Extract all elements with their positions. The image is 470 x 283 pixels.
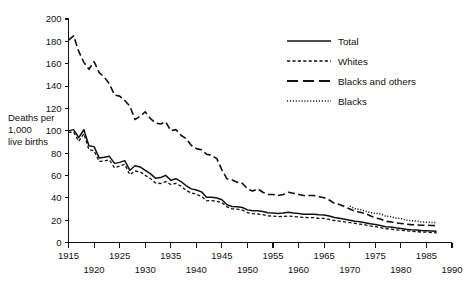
x-tick-label-lower: 1940 (186, 264, 207, 275)
x-tick-label-upper: 1965 (314, 250, 335, 261)
x-tick-label-lower: 1920 (83, 264, 104, 275)
y-axis-title-line-2: 1,000 (8, 124, 32, 135)
y-axis-title-line-1: Deaths per (8, 112, 54, 123)
x-tick-label-lower: 1990 (441, 264, 462, 275)
x-tick-label-lower: 1960 (288, 264, 309, 275)
x-tick-label-upper: 1925 (109, 250, 130, 261)
x-tick-label-upper: 1915 (58, 250, 79, 261)
series-line-whites (69, 132, 437, 233)
y-tick-label: 180 (46, 36, 62, 47)
x-tick-label-upper: 1935 (160, 250, 181, 261)
y-axis-tick-group: 020406080100120140160180200 (46, 13, 69, 248)
y-axis-title-line-3: live births (8, 136, 48, 147)
legend-label-total: Total (338, 36, 359, 47)
x-tick-label-lower: 1970 (339, 264, 360, 275)
y-tick-label: 100 (46, 125, 62, 136)
series-line-total (69, 130, 437, 232)
x-tick-label-upper: 1985 (416, 250, 437, 261)
y-tick-label: 160 (46, 58, 62, 69)
legend-label-whites: Whites (338, 56, 368, 67)
y-tick-label: 200 (46, 13, 62, 24)
x-tick-label-upper: 1955 (262, 250, 283, 261)
y-tick-label: 20 (51, 215, 62, 226)
x-tick-label-upper: 1975 (365, 250, 386, 261)
y-tick-label: 0 (56, 237, 61, 248)
legend-label-blacks-and-others: Blacks and others (338, 76, 416, 87)
y-tick-label: 140 (46, 80, 62, 91)
y-tick-label: 60 (51, 170, 62, 181)
x-tick-label-lower: 1980 (390, 264, 411, 275)
y-tick-label: 80 (51, 148, 62, 159)
series-line-blacks-and-others (69, 36, 437, 226)
y-tick-label: 40 (51, 192, 62, 203)
x-axis-tick-group: 1915192019251930193519401945195019551960… (58, 243, 463, 275)
x-tick-label-upper: 1945 (211, 250, 232, 261)
series-group (69, 36, 437, 233)
legend-label-blacks: Blacks (338, 96, 367, 107)
infant-mortality-chart: 020406080100120140160180200 191519201925… (0, 0, 470, 283)
x-tick-label-lower: 1930 (135, 264, 156, 275)
x-tick-label-lower: 1950 (237, 264, 258, 275)
series-line-blacks (350, 206, 437, 222)
chart-legend: TotalWhitesBlacks and othersBlacks (287, 36, 416, 107)
chart-canvas: 020406080100120140160180200 191519201925… (0, 0, 470, 283)
